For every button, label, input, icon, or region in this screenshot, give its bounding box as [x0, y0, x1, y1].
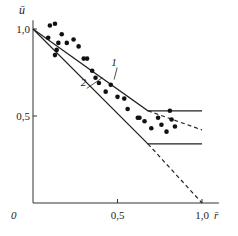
- annotation-label-2: 2: [81, 76, 87, 88]
- data-point: [90, 68, 95, 73]
- data-point: [169, 117, 174, 122]
- series-2-dashed-line: [148, 144, 202, 203]
- data-point: [142, 119, 147, 124]
- x-tick-label: 0,5: [111, 209, 125, 221]
- data-point: [122, 96, 127, 101]
- data-point: [159, 122, 164, 127]
- data-point: [168, 108, 173, 113]
- annotation-label-1: 1: [111, 56, 117, 68]
- data-point: [76, 44, 81, 49]
- data-point: [93, 75, 98, 80]
- data-point: [149, 126, 154, 131]
- data-points: [46, 21, 177, 133]
- data-point: [56, 41, 61, 46]
- data-point: [164, 129, 169, 134]
- origin-label: 0: [11, 209, 17, 221]
- y-tick-label: 1,0: [16, 23, 30, 35]
- y-axis-label: ū: [19, 3, 25, 17]
- data-point: [46, 35, 51, 40]
- chart: 0,51,00,51,00r̄ū 12: [0, 0, 238, 236]
- data-point: [53, 53, 58, 58]
- data-point: [125, 107, 130, 112]
- data-point: [54, 48, 59, 53]
- data-point: [108, 82, 113, 87]
- annotation-leader-1: [114, 68, 117, 80]
- data-point: [137, 115, 142, 120]
- x-axis-label: r̄: [214, 209, 219, 221]
- data-point: [173, 124, 178, 129]
- data-point: [53, 21, 58, 26]
- y-tick-label: 0,5: [16, 110, 30, 122]
- series-lines: [33, 29, 202, 203]
- data-point: [85, 56, 90, 61]
- data-point: [115, 95, 120, 100]
- data-point: [71, 37, 76, 42]
- x-tick-label: 1,0: [195, 209, 209, 221]
- data-point: [65, 41, 70, 46]
- data-point: [156, 115, 161, 120]
- data-point: [48, 23, 53, 28]
- data-point: [103, 89, 108, 94]
- data-point: [59, 32, 64, 37]
